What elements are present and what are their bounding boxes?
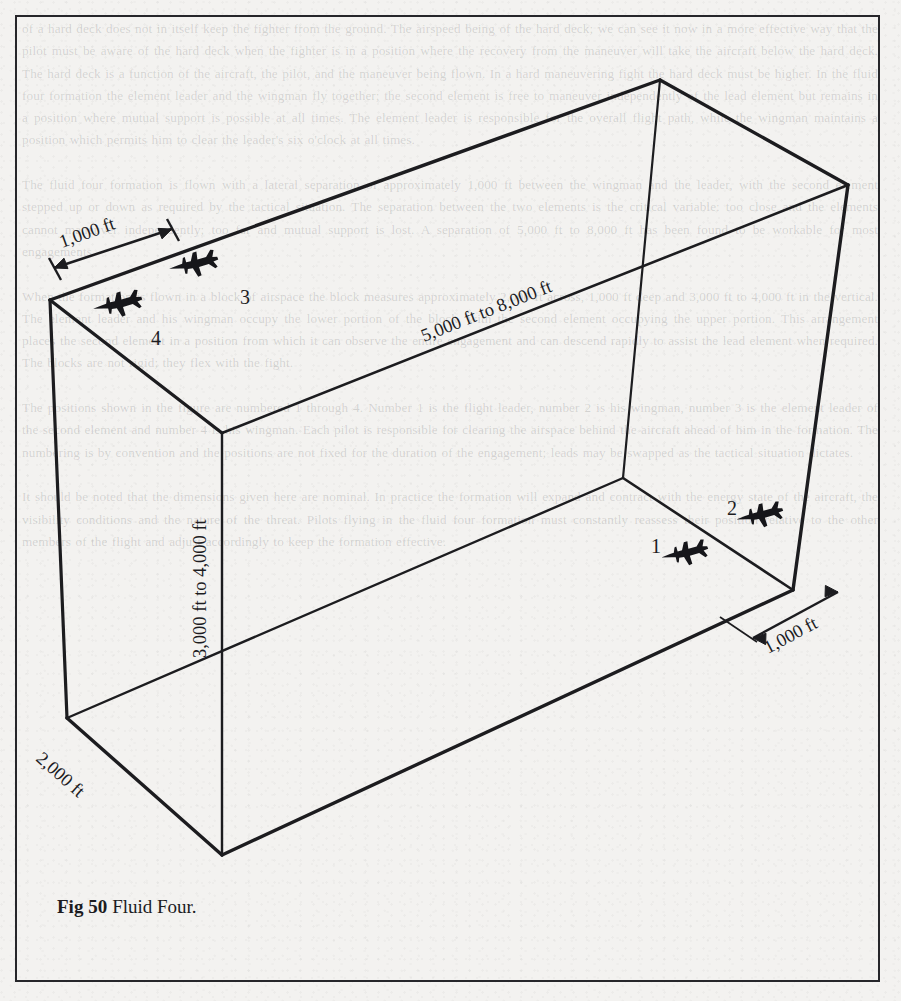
dimension-label-depth-top: 1,000 ft <box>57 213 119 252</box>
edge-floor-back-right <box>623 478 793 590</box>
edge-ceiling-front-left <box>50 300 222 433</box>
aircraft-label-1: 1 <box>651 535 661 557</box>
figure-caption-label: Fig 50 <box>57 896 107 917</box>
figure-caption: Fig 50Fluid Four. <box>57 896 197 918</box>
aircraft-2-silhouette <box>735 500 786 531</box>
aircraft-label-4: 4 <box>151 327 161 349</box>
figure-caption-text: Fluid Four. <box>107 896 196 917</box>
aircraft-4-silhouette <box>91 288 144 321</box>
edge-vertical-left <box>50 300 67 718</box>
edge-vertical-right <box>793 185 848 590</box>
edge-ceiling-left-back <box>50 80 660 300</box>
aircraft-1-silhouette <box>660 538 711 569</box>
edge-floor-left-front <box>67 718 222 855</box>
box-wireframe <box>50 80 848 855</box>
edge-vertical-back-inner <box>623 80 660 478</box>
dimension-label-width-bottom: 2,000 ft <box>32 748 89 802</box>
aircraft-label-3: 3 <box>240 286 250 308</box>
dimension-labels: 1,000 ft 5,000 ft to 8,000 ft 3,000 ft t… <box>32 213 821 802</box>
aircraft-label-2: 2 <box>727 497 737 519</box>
edge-floor-left-back <box>67 478 623 718</box>
dimension-lines <box>49 219 838 645</box>
edge-ceiling-right-front <box>222 185 848 433</box>
fluid-four-diagram: 1,000 ft 5,000 ft to 8,000 ft 3,000 ft t… <box>0 0 901 1001</box>
scanned-book-page: of a hard deck does not in itself keep t… <box>0 0 901 1001</box>
dimension-label-length: 5,000 ft to 8,000 ft <box>418 276 555 346</box>
edge-ceiling-back-right <box>660 80 848 185</box>
dimension-label-height: 3,000 ft to 4,000 ft <box>190 518 210 658</box>
dimension-label-depth-bottom: 1,000 ft <box>760 612 821 657</box>
edge-floor-front-right <box>222 590 793 855</box>
